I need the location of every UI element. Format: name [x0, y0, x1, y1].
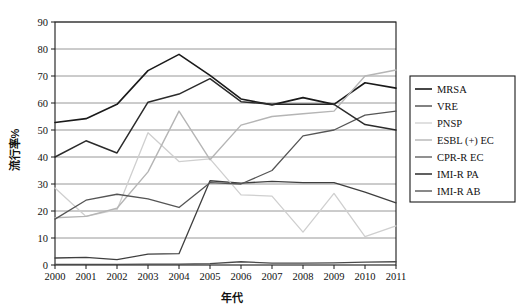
legend-label: PNSP	[437, 118, 462, 129]
y-tick-label: 0	[43, 260, 48, 271]
y-tick-label: 10	[38, 233, 49, 244]
legend-label: IMI-R AB	[437, 186, 480, 197]
y-tick-label: 50	[38, 125, 49, 136]
y-tick-label: 60	[38, 98, 49, 109]
x-tick-label: 2006	[231, 271, 252, 282]
y-tick-label: 20	[38, 206, 49, 217]
x-tick-label: 2009	[324, 271, 345, 282]
chart-figure: 0102030405060708090 20002001200220032004…	[0, 0, 519, 308]
legend-label: MRSA	[437, 84, 467, 95]
x-tick-label: 2005	[200, 271, 221, 282]
x-tick-label: 2011	[386, 271, 407, 282]
line-chart-canvas: 0102030405060708090 20002001200220032004…	[0, 0, 519, 308]
y-tick-label: 30	[38, 179, 49, 190]
legend-label: CPR-R EC	[437, 152, 483, 163]
x-tick-label: 2002	[107, 271, 128, 282]
y-axis-title: 流行率%	[8, 128, 21, 171]
y-tick-label: 40	[38, 152, 49, 163]
y-tick-label: 70	[38, 71, 49, 82]
x-tick-label: 2007	[262, 271, 283, 282]
legend-label: VRE	[437, 101, 458, 112]
legend-label: IMI-R PA	[437, 169, 479, 180]
x-tick-label: 2010	[355, 271, 376, 282]
x-tick-label: 2004	[169, 271, 191, 282]
x-axis-title: 年代	[221, 291, 243, 304]
y-tick-label: 80	[38, 44, 49, 55]
legend[interactable]: MRSAVREPNSPESBL (+) ECCPR-R ECIMI-R PAIM…	[410, 76, 515, 202]
x-tick-label: 2008	[293, 271, 314, 282]
y-tick-label: 90	[38, 17, 49, 28]
legend-label: ESBL (+) EC	[437, 135, 494, 147]
x-tick-label: 2003	[138, 271, 159, 282]
x-tick-label: 2001	[76, 271, 97, 282]
x-tick-label: 2000	[45, 271, 66, 282]
